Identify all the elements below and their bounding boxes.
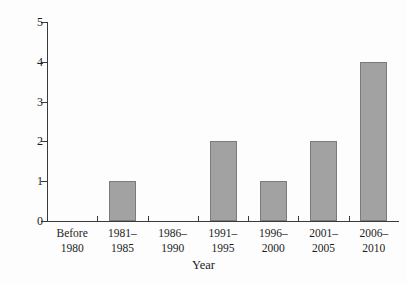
- x-axis-title: Year: [0, 258, 407, 273]
- x-tick-label: Before 1980: [47, 226, 97, 255]
- x-tick-mark: [349, 216, 350, 222]
- y-tick-label: 3: [37, 94, 43, 110]
- bar: [260, 181, 287, 221]
- x-tick-label: 1981– 1985: [97, 226, 147, 255]
- bar: [360, 62, 387, 221]
- x-axis-line: [47, 221, 399, 222]
- x-tick-label: 1996– 2000: [248, 226, 298, 255]
- plot-area: 012345: [47, 22, 399, 221]
- y-tick-label: 0: [37, 213, 43, 229]
- y-tick-label: 5: [37, 14, 43, 30]
- bar-chart-figure: Number of 147 maximum breaks 012345 Befo…: [0, 0, 407, 284]
- bar: [210, 141, 237, 221]
- x-tick-mark: [248, 216, 249, 222]
- x-tick-label: 1986– 1990: [148, 226, 198, 255]
- x-tick-mark: [148, 216, 149, 222]
- y-axis-line: [47, 22, 48, 221]
- x-tick-label: 1991– 1995: [198, 226, 248, 255]
- bar: [310, 141, 337, 221]
- y-tick-label: 2: [37, 133, 43, 149]
- y-tick-label: 1: [37, 173, 43, 189]
- x-tick-label: 2006– 2010: [349, 226, 399, 255]
- x-tick-mark: [298, 216, 299, 222]
- y-tick-label: 4: [37, 54, 43, 70]
- x-tick-mark: [198, 216, 199, 222]
- x-tick-label: 2001– 2005: [298, 226, 348, 255]
- x-tick-mark: [97, 216, 98, 222]
- bar: [109, 181, 136, 221]
